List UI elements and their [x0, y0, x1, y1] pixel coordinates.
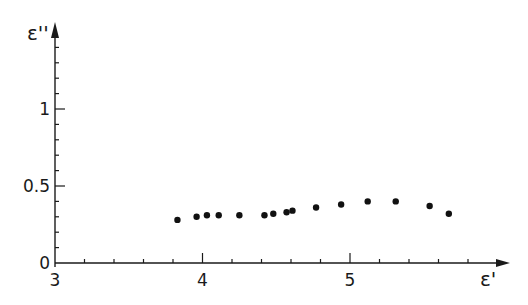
x-axis-label: ε': [480, 267, 496, 291]
data-points: [174, 198, 452, 223]
data-point: [446, 211, 452, 217]
y-tick-label: 1: [39, 99, 50, 119]
data-point: [393, 198, 399, 204]
data-point: [174, 217, 180, 223]
y-tick-label: 0: [39, 253, 50, 273]
axes: 34500.51: [23, 22, 510, 290]
axis-labels: ε'' ε': [27, 21, 496, 291]
x-axis-arrow-icon: [496, 259, 510, 267]
data-point: [193, 214, 199, 220]
data-point: [289, 207, 295, 213]
x-tick-label: 4: [197, 270, 208, 290]
data-point: [204, 212, 210, 218]
data-point: [216, 212, 222, 218]
data-point: [283, 209, 289, 215]
data-point: [365, 198, 371, 204]
y-axis-arrow-icon: [51, 22, 59, 38]
data-point: [338, 201, 344, 207]
data-point: [236, 212, 242, 218]
data-point: [313, 204, 319, 210]
scatter-chart: 34500.51 ε'' ε': [0, 0, 528, 305]
data-point: [261, 212, 267, 218]
y-tick-label: 0.5: [23, 176, 50, 196]
x-tick-label: 5: [345, 270, 356, 290]
x-tick-label: 3: [50, 270, 61, 290]
y-axis-label: ε'': [27, 21, 49, 45]
data-point: [426, 203, 432, 209]
data-point: [270, 211, 276, 217]
